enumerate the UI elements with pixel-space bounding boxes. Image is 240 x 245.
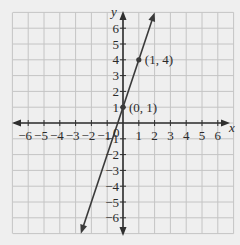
point-label: (1, 4) <box>145 52 173 67</box>
y-tick-label: 1 <box>113 100 120 115</box>
data-point <box>136 57 141 62</box>
x-tick-label: 2 <box>151 128 158 143</box>
y-tick-label: −6 <box>105 210 119 225</box>
coordinate-plane: −6−5−4−3−2−1123456−6−5−4−3−2−1123456 (0,… <box>0 0 240 245</box>
x-tick-label: −5 <box>34 128 48 143</box>
y-tick-label: 4 <box>113 52 120 67</box>
y-tick-label: 6 <box>113 21 120 36</box>
line-end-arrow-icon <box>148 12 155 22</box>
y-tick-label: −4 <box>105 179 119 194</box>
y-axis-down-arrow-icon <box>120 227 127 236</box>
data-point <box>120 105 125 110</box>
x-axis-label: x <box>228 120 235 135</box>
point-label: (0, 1) <box>129 100 157 115</box>
x-tick-label: −4 <box>50 128 64 143</box>
line-start-arrow-icon <box>80 224 87 234</box>
y-tick-label: 3 <box>113 68 120 83</box>
y-tick-label: 2 <box>113 84 120 99</box>
x-tick-label: 5 <box>199 128 206 143</box>
x-tick-label: 6 <box>215 128 222 143</box>
x-tick-label: −6 <box>18 128 32 143</box>
origin-label: 0 <box>113 125 120 140</box>
y-tick-label: −5 <box>105 195 119 210</box>
y-tick-label: −3 <box>105 163 119 178</box>
x-tick-label: 3 <box>167 128 174 143</box>
y-tick-label: 5 <box>113 37 120 52</box>
x-tick-label: −3 <box>66 128 80 143</box>
x-axis-left-arrow-icon <box>12 120 21 127</box>
x-tick-label: 4 <box>183 128 190 143</box>
x-tick-label: 1 <box>136 128 143 143</box>
plotted-points: (0, 1)(1, 4) <box>120 52 173 114</box>
y-axis-label: y <box>109 4 117 19</box>
x-tick-label: −2 <box>81 128 95 143</box>
